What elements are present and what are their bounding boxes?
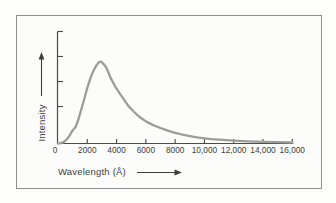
- y-axis-title: Intensity: [36, 104, 47, 141]
- figure-page: 0200040006000800010,00012,00014,00016,00…: [0, 0, 336, 203]
- x-axis-title: Wavelength (Å): [58, 166, 126, 177]
- chart-canvas: 0200040006000800010,00012,00014,00016,00…: [0, 0, 336, 203]
- x-tick-label: 8000: [166, 145, 185, 155]
- x-tick-label: 6000: [137, 145, 156, 155]
- right-arrow-icon: [175, 170, 183, 176]
- x-tick-label: 2000: [78, 145, 97, 155]
- x-tick-label: 0: [53, 145, 58, 155]
- x-tick-label: 4000: [107, 145, 126, 155]
- up-arrow-icon: [39, 52, 45, 60]
- intensity-curve: [58, 62, 292, 144]
- x-tick-label: 16,000: [280, 145, 306, 155]
- x-tick-label: 12,000: [221, 145, 247, 155]
- x-tick-label: 10,000: [192, 145, 218, 155]
- x-tick-label: 14,000: [250, 145, 276, 155]
